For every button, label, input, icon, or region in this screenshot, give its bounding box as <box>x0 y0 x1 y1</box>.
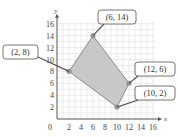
x-axis-label: x <box>163 115 168 123</box>
y-axis-label: y <box>53 7 58 15</box>
vertex-label: (2, 8) <box>11 47 30 57</box>
x-tick-label: 10 <box>113 123 121 132</box>
x-axis-arrow-icon <box>158 117 162 121</box>
vertex-label: (6, 14) <box>106 12 129 22</box>
y-tick-label: 16 <box>46 20 54 29</box>
x-tick-label: 6 <box>91 123 95 132</box>
x-tick-label: 16 <box>149 123 157 132</box>
x-tick-label: 8 <box>103 123 107 132</box>
y-tick-label: 6 <box>50 79 54 88</box>
x-tick-label: 14 <box>137 123 145 132</box>
x-tick-label: 0 <box>48 123 52 132</box>
vertex-label: (10, 2) <box>144 88 167 98</box>
y-tick-label: 4 <box>50 91 54 100</box>
x-tick-label: 12 <box>125 123 133 132</box>
feasible-region-chart: xy 0246810121416246810121416 (2, 8)(6, 1… <box>0 0 178 137</box>
x-tick-label: 4 <box>79 123 83 132</box>
y-tick-label: 2 <box>50 103 54 112</box>
chart-container: xy 0246810121416246810121416 (2, 8)(6, 1… <box>0 0 178 137</box>
y-tick-label: 12 <box>46 44 54 53</box>
vertex-label: (12, 6) <box>144 64 167 74</box>
y-tick-label: 8 <box>50 67 54 76</box>
y-tick-label: 14 <box>46 32 54 41</box>
x-tick-label: 2 <box>67 123 71 132</box>
